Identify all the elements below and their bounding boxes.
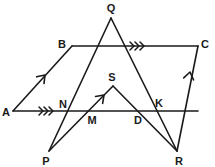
figure-segments	[13, 18, 198, 151]
segment-S-to-R	[113, 86, 177, 151]
point-label-M: M	[87, 115, 96, 126]
point-label-B: B	[58, 39, 66, 50]
segment-Q-to-R	[111, 18, 177, 151]
geometry-figure: A B C Q S N M D K P R	[0, 0, 215, 167]
point-label-D: D	[134, 115, 142, 126]
point-label-K: K	[155, 98, 163, 109]
segment-R-to-C	[177, 46, 198, 151]
point-label-C: C	[201, 39, 209, 50]
point-label-Q: Q	[107, 3, 116, 14]
point-label-A: A	[2, 107, 10, 118]
point-label-R: R	[175, 156, 183, 167]
point-label-P: P	[42, 156, 49, 167]
figure-canvas	[0, 0, 215, 167]
point-label-S: S	[108, 72, 115, 83]
point-label-N: N	[59, 99, 67, 110]
